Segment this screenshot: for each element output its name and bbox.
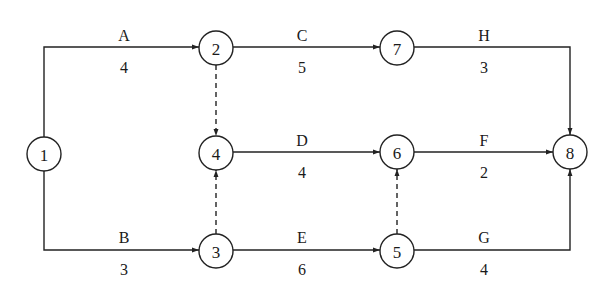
node-8: 8 [553, 135, 587, 169]
activity-g-name: G [478, 229, 490, 246]
activity-a-duration: 4 [120, 59, 128, 76]
arrow-g [414, 169, 570, 250]
activity-f: F 2 [414, 132, 553, 181]
activity-h: H 3 [414, 27, 570, 135]
node-4: 4 [199, 136, 233, 170]
node-2: 2 [199, 31, 233, 65]
node-6: 6 [380, 135, 414, 169]
activity-b: B 3 [44, 171, 199, 278]
node-2-label: 2 [212, 40, 221, 59]
activity-b-duration: 3 [120, 261, 128, 278]
activity-h-name: H [478, 27, 490, 44]
activity-a: A 4 [44, 27, 199, 137]
activity-g-duration: 4 [480, 261, 488, 278]
activity-g: G 4 [414, 169, 570, 278]
node-8-label: 8 [566, 144, 575, 163]
node-5: 5 [380, 234, 414, 268]
activity-c: C 5 [233, 27, 380, 76]
activity-e-name: E [297, 229, 307, 246]
arrow-h [414, 47, 570, 135]
node-7-label: 7 [393, 40, 402, 59]
node-4-label: 4 [212, 145, 221, 164]
node-1: 1 [27, 137, 61, 171]
node-6-label: 6 [393, 144, 402, 163]
activity-e-duration: 6 [298, 261, 306, 278]
activity-h-duration: 3 [480, 59, 488, 76]
activity-a-name: A [118, 27, 130, 44]
node-1-label: 1 [40, 146, 49, 165]
activity-c-duration: 5 [298, 59, 306, 76]
node-3: 3 [199, 234, 233, 268]
activity-d-name: D [296, 132, 308, 149]
node-5-label: 5 [393, 243, 402, 262]
activity-c-name: C [297, 27, 308, 44]
node-7: 7 [380, 31, 414, 65]
activity-d: D 4 [233, 132, 380, 181]
node-3-label: 3 [212, 243, 221, 262]
activity-f-duration: 2 [480, 164, 488, 181]
activity-e: E 6 [233, 229, 380, 278]
network-diagram: A 4 B 3 C 5 H 3 D 4 F 2 E 6 G 4 [0, 0, 606, 292]
activity-d-duration: 4 [298, 164, 306, 181]
activity-b-name: B [119, 229, 130, 246]
activity-f-name: F [480, 132, 489, 149]
